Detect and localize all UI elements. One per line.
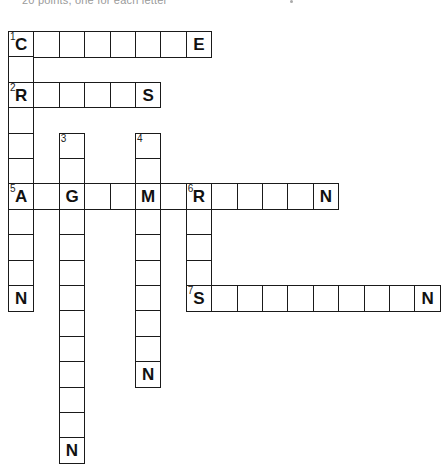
- crossword-cell[interactable]: E: [186, 31, 212, 58]
- crossword-cell[interactable]: [211, 183, 237, 210]
- crossword-cell[interactable]: N: [59, 437, 85, 464]
- crossword-cell[interactable]: [237, 285, 263, 312]
- crossword-cell[interactable]: G: [59, 183, 85, 210]
- crossword-cell[interactable]: [59, 310, 85, 337]
- crossword-cell[interactable]: 6R: [186, 183, 212, 210]
- crossword-cell[interactable]: [59, 82, 85, 109]
- crossword-cell[interactable]: S: [135, 82, 161, 109]
- crossword-cell[interactable]: [135, 234, 161, 261]
- crossword-cell[interactable]: 1C: [8, 31, 34, 58]
- given-letter: N: [60, 440, 84, 462]
- crossword-cell[interactable]: 4: [135, 133, 161, 160]
- crossword-cell[interactable]: [8, 209, 34, 236]
- crossword-cell[interactable]: 2R: [8, 82, 34, 109]
- crossword-cell[interactable]: [8, 234, 34, 261]
- crossword-cell[interactable]: [8, 107, 34, 134]
- crossword-cell[interactable]: [135, 260, 161, 287]
- crossword-cell[interactable]: [135, 285, 161, 312]
- crossword-grid: 1CE2R5ANS3GN4MN6RN7SN: [0, 0, 444, 475]
- clue-number: 3: [61, 133, 67, 145]
- clue-number: 4: [137, 133, 143, 145]
- crossword-cell[interactable]: [8, 133, 34, 160]
- crossword-cell[interactable]: [135, 336, 161, 363]
- crossword-cell[interactable]: [338, 285, 364, 312]
- crossword-cell[interactable]: N: [8, 285, 34, 312]
- crossword-cell[interactable]: N: [313, 183, 339, 210]
- crossword-cell[interactable]: [59, 31, 85, 58]
- crossword-cell[interactable]: [135, 310, 161, 337]
- crossword-cell[interactable]: [287, 285, 313, 312]
- given-letter: A: [9, 186, 33, 208]
- given-letter: N: [314, 186, 338, 208]
- crossword-cell[interactable]: [110, 82, 136, 109]
- given-letter: E: [187, 34, 211, 56]
- crossword-cell[interactable]: [84, 183, 110, 210]
- crossword-cell[interactable]: [33, 31, 59, 58]
- crossword-cell[interactable]: [262, 183, 288, 210]
- given-letter: N: [136, 364, 160, 386]
- crossword-cell[interactable]: [364, 285, 390, 312]
- crossword-cell[interactable]: [110, 31, 136, 58]
- crossword-cell[interactable]: [8, 260, 34, 287]
- crossword-cell[interactable]: [211, 285, 237, 312]
- crossword-cell[interactable]: [237, 183, 263, 210]
- crossword-cell[interactable]: [110, 183, 136, 210]
- crossword-cell[interactable]: [186, 209, 212, 236]
- crossword-cell[interactable]: N: [135, 361, 161, 388]
- crossword-cell[interactable]: [135, 158, 161, 185]
- crossword-cell[interactable]: 3: [59, 133, 85, 160]
- crossword-cell[interactable]: 7S: [186, 285, 212, 312]
- crossword-cell[interactable]: [59, 412, 85, 439]
- crossword-cell[interactable]: M: [135, 183, 161, 210]
- crossword-cell[interactable]: [186, 260, 212, 287]
- crossword-cell[interactable]: [186, 234, 212, 261]
- crossword-cell[interactable]: [59, 336, 85, 363]
- crossword-cell[interactable]: [84, 31, 110, 58]
- crossword-cell[interactable]: [135, 209, 161, 236]
- crossword-cell[interactable]: [160, 31, 186, 58]
- crossword-cell[interactable]: 5A: [8, 183, 34, 210]
- given-letter: G: [60, 186, 84, 208]
- given-letter: C: [9, 34, 33, 56]
- crossword-cell[interactable]: [33, 82, 59, 109]
- given-letter: R: [187, 186, 211, 208]
- given-letter: M: [136, 186, 160, 208]
- crossword-cell[interactable]: N: [414, 285, 440, 312]
- given-letter: N: [9, 288, 33, 310]
- given-letter: N: [415, 288, 439, 310]
- crossword-cell[interactable]: [313, 285, 339, 312]
- crossword-cell[interactable]: [84, 82, 110, 109]
- given-letter: S: [136, 85, 160, 107]
- crossword-cell[interactable]: [59, 234, 85, 261]
- crossword-cell[interactable]: [59, 361, 85, 388]
- crossword-cell[interactable]: [160, 183, 186, 210]
- crossword-cell[interactable]: [135, 31, 161, 58]
- crossword-cell[interactable]: [8, 56, 34, 83]
- crossword-cell[interactable]: [59, 285, 85, 312]
- given-letter: R: [9, 85, 33, 107]
- crossword-cell[interactable]: [59, 209, 85, 236]
- crossword-cell[interactable]: [59, 387, 85, 414]
- crossword-cell[interactable]: [262, 285, 288, 312]
- crossword-cell[interactable]: [59, 260, 85, 287]
- crossword-cell[interactable]: [59, 158, 85, 185]
- crossword-cell[interactable]: [33, 183, 59, 210]
- crossword-cell[interactable]: [389, 285, 415, 312]
- crossword-cell[interactable]: [8, 158, 34, 185]
- crossword-cell[interactable]: [287, 183, 313, 210]
- given-letter: S: [187, 288, 211, 310]
